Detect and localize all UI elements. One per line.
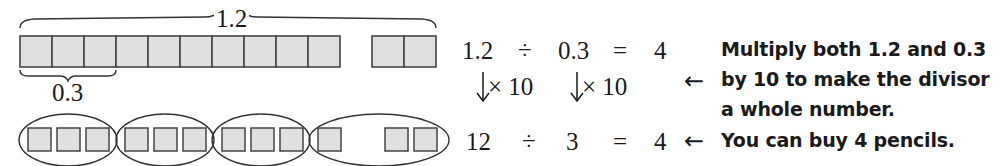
- note-multiply-line-3: a whole number.: [721, 100, 895, 119]
- scale-label-divisor: × 10: [582, 74, 627, 99]
- top-bar-main: [20, 36, 340, 67]
- quotient-original: 4: [654, 38, 667, 63]
- note-result: You can buy 4 pencils.: [721, 131, 955, 150]
- dividend-original: 1.2: [462, 38, 493, 63]
- group-cells: [28, 128, 437, 151]
- brace-label-1-2: 1.2: [214, 6, 249, 31]
- top-bar-extra: [372, 36, 436, 67]
- note-multiply-line-2: by 10 to make the divisor: [721, 70, 990, 89]
- left-arrow-icon: ←: [684, 69, 704, 93]
- divisor-scaled: 3: [566, 129, 579, 154]
- divide-sign-2: ÷: [522, 129, 536, 154]
- scale-label-dividend: × 10: [488, 74, 533, 99]
- divisor-original: 0.3: [558, 38, 589, 63]
- left-arrow-icon: ←: [684, 129, 704, 153]
- equals-sign-2: =: [613, 129, 627, 154]
- note-multiply-line-1: Multiply both 1.2 and 0.3: [721, 40, 986, 59]
- brace-label-0-3: 0.3: [50, 80, 85, 105]
- equals-sign-1: =: [613, 38, 627, 63]
- divide-sign-1: ÷: [518, 38, 532, 63]
- quotient-scaled: 4: [654, 129, 667, 154]
- dividend-scaled: 12: [466, 129, 491, 154]
